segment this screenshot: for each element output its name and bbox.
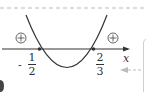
root-right-numerator: 2 [97, 52, 104, 63]
root-left-label: 1 2 [28, 52, 36, 77]
root-left-sign: - [18, 59, 22, 72]
x-axis-label: x [123, 52, 129, 65]
root-right-denominator: 3 [97, 66, 104, 77]
x-axis-arrow-icon [123, 47, 130, 52]
root-left-denominator: 2 [29, 66, 36, 77]
root-left-numerator: 1 [29, 52, 36, 63]
plus-sign-left-icon [16, 33, 26, 43]
pointer-arrow-icon [120, 67, 128, 73]
sign-chart-canvas [0, 0, 146, 92]
plus-sign-right-icon [108, 33, 118, 43]
root-point-right [92, 47, 96, 51]
parabola-curve [26, 15, 107, 68]
root-right-label: 2 3 [96, 52, 104, 77]
side-panel-box [143, 38, 146, 92]
corner-badge-fragment [0, 80, 4, 92]
root-point-left [38, 47, 42, 51]
